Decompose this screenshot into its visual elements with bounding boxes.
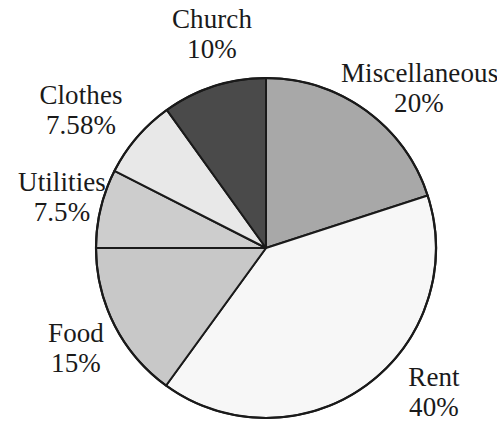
pie-chart: Church 10% Miscellaneous 20% Clothes 7.5… (0, 0, 497, 430)
pie-label-clothes-name: Clothes (14, 80, 148, 110)
pie-label-utilities-value: 7.5% (2, 197, 122, 227)
pie-label-miscellaneous-value: 20% (341, 88, 497, 118)
pie-label-miscellaneous: Miscellaneous 20% (341, 58, 497, 118)
pie-label-church-value: 10% (150, 34, 274, 64)
pie-label-rent-value: 40% (386, 392, 482, 422)
pie-label-miscellaneous-name: Miscellaneous (341, 58, 497, 88)
pie-label-food-value: 15% (22, 348, 130, 378)
pie-label-clothes: Clothes 7.58% (14, 80, 148, 140)
pie-label-utilities-name: Utilities (2, 167, 122, 197)
pie-label-church: Church 10% (150, 4, 274, 64)
pie-label-utilities: Utilities 7.5% (2, 167, 122, 227)
pie-label-food-name: Food (22, 318, 130, 348)
pie-label-clothes-value: 7.58% (14, 110, 148, 140)
pie-label-church-name: Church (150, 4, 274, 34)
pie-label-rent: Rent 40% (386, 362, 482, 422)
pie-label-food: Food 15% (22, 318, 130, 378)
pie-label-rent-name: Rent (386, 362, 482, 392)
